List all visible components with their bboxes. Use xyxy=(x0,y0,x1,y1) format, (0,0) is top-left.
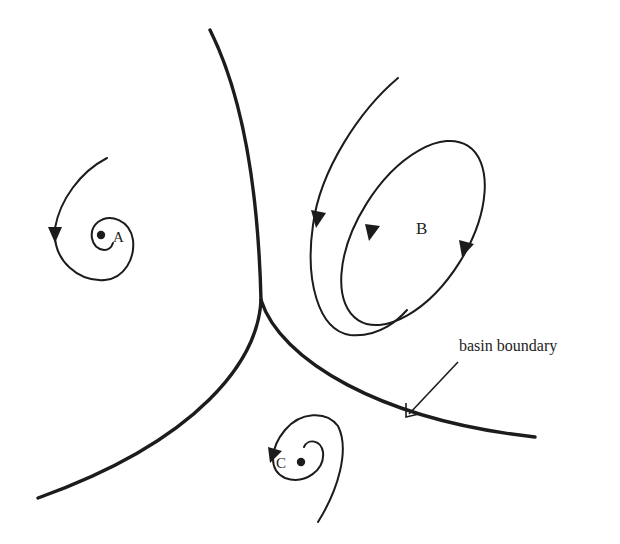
basin-boundary-annotation: basin boundary xyxy=(406,337,557,417)
limit-cycle-b xyxy=(312,117,514,350)
arrow-b-inner-left xyxy=(365,224,380,241)
basin-diagram: A B C basin boundary xyxy=(0,0,620,544)
annotation-arrow-line xyxy=(409,362,458,414)
label-a: A xyxy=(113,229,124,245)
attractor-b: B xyxy=(311,78,515,349)
boundary-upper xyxy=(210,30,261,300)
boundary-lower-left xyxy=(38,300,261,498)
attractor-a: A xyxy=(48,158,133,280)
attractor-c: C xyxy=(268,415,343,522)
label-b: B xyxy=(416,219,427,238)
fixed-point-a xyxy=(97,231,105,239)
arrow-b-inner-right xyxy=(459,240,474,257)
fixed-point-c xyxy=(297,458,305,466)
label-c: C xyxy=(276,455,286,471)
trajectory-b-incoming xyxy=(311,78,407,335)
arrow-a xyxy=(48,227,62,243)
annotation-text: basin boundary xyxy=(459,337,557,355)
trajectory-a xyxy=(55,158,133,280)
